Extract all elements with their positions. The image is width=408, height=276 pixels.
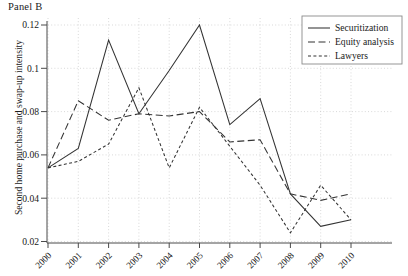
- line-chart-plot: 0.020.040.060.080.10.12 2000200120022003…: [0, 0, 408, 276]
- x-tick-label: 2008: [276, 250, 296, 270]
- y-tick-label: 0.04: [22, 193, 39, 204]
- y-tick-labels-group: 0.020.040.060.080.10.12: [22, 19, 39, 246]
- x-tick-label: 2006: [215, 250, 235, 270]
- y-tick-label: 0.06: [22, 149, 39, 160]
- x-tick-label: 2000: [33, 250, 53, 270]
- x-tick-label: 2010: [336, 250, 356, 270]
- legend-label-lawyers: Lawyers: [335, 50, 368, 61]
- y-tick-label: 0.08: [22, 106, 39, 117]
- x-tick-labels-group: 2000200120022003200420052006200720082009…: [33, 250, 356, 270]
- x-tick-label: 2003: [124, 250, 144, 270]
- y-tick-label: 0.12: [22, 19, 39, 30]
- x-tick-label: 2001: [64, 250, 84, 270]
- x-tick-label: 2009: [306, 250, 326, 270]
- chart-figure: Panel B Second home purchase and swap-up…: [0, 0, 408, 276]
- legend-label-equity-analysis: Equity analysis: [335, 36, 394, 47]
- x-tick-label: 2002: [94, 250, 114, 270]
- chart-legend: SecuritizationEquity analysisLawyers: [302, 16, 402, 64]
- legend-label-securitization: Securitization: [335, 22, 388, 33]
- series-line-equity-analysis: [48, 101, 351, 201]
- x-tick-label: 2004: [155, 250, 175, 270]
- series-line-lawyers: [48, 88, 351, 233]
- y-tick-label: 0.02: [22, 236, 39, 247]
- y-tick-label: 0.1: [27, 63, 39, 74]
- x-tick-label: 2005: [185, 250, 205, 270]
- x-tick-label: 2007: [245, 250, 265, 270]
